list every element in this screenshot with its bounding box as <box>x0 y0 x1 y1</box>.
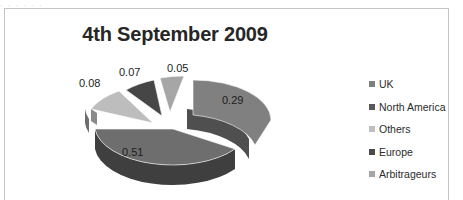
legend-item-europe[interactable]: Europe <box>369 141 463 164</box>
slice-depth-others-edge <box>91 109 97 125</box>
data-label-arbitrageurs: 0.05 <box>167 62 188 74</box>
legend-item-north-america[interactable]: North America <box>369 96 463 119</box>
pie-3d-graphic <box>35 53 335 198</box>
data-label-europe: 0.07 <box>119 66 140 78</box>
legend-swatch-europe <box>369 149 375 155</box>
legend-swatch-north-america <box>369 104 375 110</box>
chart-frame: 4th September 2009 <box>4 8 449 200</box>
legend-swatch-uk <box>369 81 375 87</box>
legend-label-others: Others <box>379 123 411 135</box>
legend-label-north-america: North America <box>379 101 446 113</box>
pie-slice-arbitrageurs <box>160 76 184 112</box>
slice-depth-others <box>85 109 89 133</box>
chart-screenshot: . . . . . . 4th September 2009 <box>0 0 463 200</box>
data-label-north-america: 0.51 <box>122 146 143 158</box>
legend-item-others[interactable]: Others <box>369 118 463 141</box>
data-label-others: 0.08 <box>79 77 100 89</box>
chart-legend: UK North America Others Europe Arbitrage… <box>369 73 463 186</box>
legend-swatch-others <box>369 126 375 132</box>
legend-item-arbitrageurs[interactable]: Arbitrageurs <box>369 163 463 186</box>
chart-title: 4th September 2009 <box>5 23 345 46</box>
legend-item-uk[interactable]: UK <box>369 73 463 96</box>
data-label-uk: 0.29 <box>222 94 243 106</box>
cropped-text-remnant: . . . . . . <box>0 0 463 7</box>
legend-label-arbitrageurs: Arbitrageurs <box>379 168 436 180</box>
pie-chart: 0.08 0.07 0.05 0.29 0.51 <box>35 53 335 198</box>
legend-swatch-arbitrageurs <box>369 171 375 177</box>
legend-label-europe: Europe <box>379 146 413 158</box>
legend-label-uk: UK <box>379 78 394 90</box>
